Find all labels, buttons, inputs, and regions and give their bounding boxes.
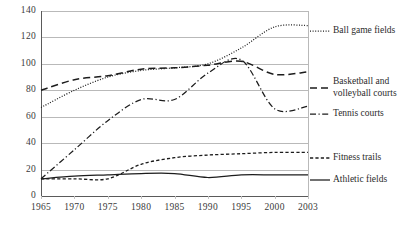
legend-item-label: Tennis courts [333, 108, 384, 120]
legend-item-label: Ball game fields [333, 25, 395, 37]
series-line-basketball-and-volleyball-courts [41, 61, 308, 90]
chart-figure: 020406080100120140 196519701975198019851… [0, 0, 410, 235]
legend-item-label: Basketball and volleyball courts [333, 76, 397, 99]
legend-item-label: Fitness trails [333, 152, 381, 164]
series-line-ball-game-fields [41, 25, 308, 108]
series-line-athletic-fields [41, 173, 308, 179]
series-line-tennis-courts [41, 58, 308, 178]
legend-item-label: Athletic fields [333, 174, 387, 186]
